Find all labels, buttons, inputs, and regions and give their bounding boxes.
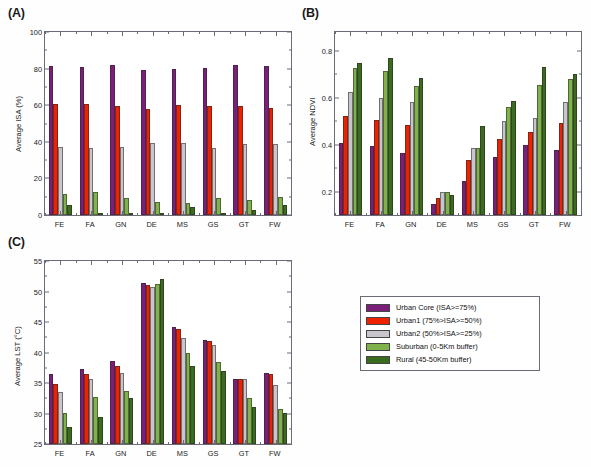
legend-item[interactable]: Rural (45-50Km buffer) (366, 353, 533, 366)
x-tick-mark (214, 261, 215, 265)
x-tick-label: GS (208, 220, 219, 229)
x-minor-tick (76, 32, 77, 34)
x-tick-label: DE (436, 220, 446, 229)
bar-group (264, 261, 287, 444)
x-minor-tick (520, 213, 521, 215)
x-tick-mark (214, 32, 215, 36)
x-tick-mark (566, 32, 567, 36)
x-tick-label: GT (239, 220, 249, 229)
y-tick-label: 0.2 (322, 187, 332, 196)
bar-group (141, 261, 164, 444)
x-minor-tick (45, 213, 46, 215)
x-tick-label: FW (559, 220, 571, 229)
y-minor-tick (45, 398, 47, 399)
y-minor-tick (335, 121, 337, 122)
bar (129, 213, 134, 215)
x-minor-tick (168, 32, 169, 34)
legend-item[interactable]: Urban2 (50%>ISA>=25%) (366, 327, 533, 340)
y-tick-mark (287, 68, 291, 69)
x-tick-mark (381, 211, 382, 215)
y-minor-tick (45, 86, 47, 87)
bar-group (110, 261, 133, 444)
x-minor-tick (230, 32, 231, 34)
x-tick-mark (245, 440, 246, 444)
bar (252, 407, 257, 444)
y-tick-label: 40 (34, 137, 42, 146)
x-tick-mark (60, 32, 61, 36)
bar-group (493, 32, 516, 215)
x-tick-label: FA (86, 449, 95, 458)
y-tick-mark (287, 261, 291, 262)
y-minor-tick (335, 168, 337, 169)
y-minor-tick (45, 306, 47, 307)
y-tick-mark (577, 97, 581, 98)
panel-b-ylabel: Average NDVI (308, 98, 317, 146)
x-tick-mark (412, 32, 413, 36)
y-tick-label: 0.8 (322, 46, 332, 55)
x-tick-mark (122, 261, 123, 265)
y-minor-tick (579, 121, 581, 122)
legend-item[interactable]: Suburban (0-5Km buffer) (366, 340, 533, 353)
x-minor-tick (107, 213, 108, 215)
y-minor-tick (289, 398, 291, 399)
bar (221, 371, 226, 444)
y-minor-tick (45, 196, 47, 197)
bar-group (400, 32, 423, 215)
panel-c-axes: 25303540455055 (44, 260, 292, 445)
bar-group (370, 32, 393, 215)
x-minor-tick (520, 32, 521, 34)
bar (450, 195, 455, 215)
bar (160, 279, 165, 444)
y-tick-mark (287, 352, 291, 353)
x-tick-label: FW (269, 220, 281, 229)
x-tick-label: FW (269, 449, 281, 458)
legend-swatch (366, 343, 390, 351)
legend-item[interactable]: Urban Core (ISA>=75%) (366, 301, 533, 314)
x-minor-tick (137, 261, 138, 263)
bar (480, 126, 485, 215)
y-tick-mark (287, 383, 291, 384)
x-tick-label: GN (115, 220, 126, 229)
x-tick-mark (443, 32, 444, 36)
y-tick-mark (287, 141, 291, 142)
x-tick-mark (566, 211, 567, 215)
x-tick-mark (91, 211, 92, 215)
x-tick-label: DE (146, 449, 156, 458)
x-tick-mark (153, 32, 154, 36)
x-tick-mark (153, 211, 154, 215)
y-tick-mark (287, 215, 291, 216)
bar (511, 101, 516, 215)
y-minor-tick (45, 160, 47, 161)
x-minor-tick (230, 213, 231, 215)
y-tick-label: 40 (34, 348, 42, 357)
x-tick-label: GS (498, 220, 509, 229)
y-tick-label: 60 (34, 101, 42, 110)
legend-label: Urban Core (ISA>=75%) (396, 303, 477, 312)
y-tick-label: 80 (34, 64, 42, 73)
panel-b-axes: 0.20.40.60.8 (334, 31, 582, 216)
x-minor-tick (366, 213, 367, 215)
y-minor-tick (45, 276, 47, 277)
bar (190, 207, 195, 215)
x-minor-tick (230, 442, 231, 444)
bar (160, 213, 165, 215)
x-minor-tick (397, 213, 398, 215)
x-tick-mark (60, 261, 61, 265)
bar (357, 63, 362, 215)
y-tick-label: 35 (34, 379, 42, 388)
y-tick-mark (287, 413, 291, 414)
panel-a-axes: 020406080100 (44, 31, 292, 216)
legend-item[interactable]: Urban1 (75%>ISA>=50%) (366, 314, 533, 327)
x-minor-tick (107, 442, 108, 444)
x-tick-mark (350, 32, 351, 36)
panel-b-plot: Jun-Aug NDVI for Cities by Biome Average… (295, 0, 591, 235)
x-minor-tick (550, 32, 551, 34)
bar-group (233, 32, 256, 215)
x-tick-label: DE (146, 220, 156, 229)
y-tick-mark (577, 144, 581, 145)
x-minor-tick (458, 32, 459, 34)
y-tick-mark (287, 178, 291, 179)
x-minor-tick (168, 261, 169, 263)
x-minor-tick (260, 213, 261, 215)
bar-group (264, 32, 287, 215)
